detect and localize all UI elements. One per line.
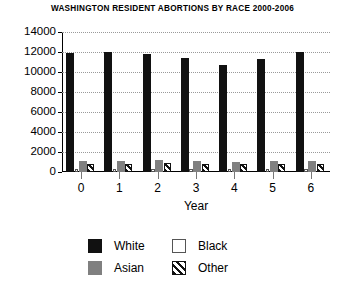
legend-column-left: White Asian [88, 237, 180, 279]
bar-group [215, 32, 253, 172]
legend-entry-white: White [88, 237, 145, 255]
y-tick-mark [58, 92, 62, 93]
bar-white [104, 52, 112, 172]
y-axis-tick-label: 4000 [0, 126, 56, 138]
bar-other [240, 164, 247, 172]
y-axis-tick-label: 14000 [0, 26, 56, 38]
legend-label-white: White [114, 240, 145, 252]
x-axis-tick-label: 1 [107, 182, 131, 194]
x-axis-tick-label: 2 [146, 182, 170, 194]
legend-swatch-black-icon [172, 239, 186, 253]
x-axis-tick-label: 0 [69, 182, 93, 194]
bar-asian [308, 161, 316, 173]
y-axis-tick-label: 12000 [0, 46, 56, 58]
bar-asian [193, 161, 201, 173]
y-axis-tick-label: 8000 [0, 86, 56, 98]
x-tick-mark [196, 172, 197, 179]
bar-other [278, 164, 285, 172]
legend-swatch-white-icon [88, 239, 102, 253]
bar-chart-figure: WASHINGTON RESIDENT ABORTIONS BY RACE 20… [0, 0, 345, 285]
legend-label-asian: Asian [114, 262, 144, 274]
bar-group [253, 32, 291, 172]
y-axis-tick-label: 2000 [0, 146, 56, 158]
bar-white [296, 52, 304, 172]
x-axis-ticks [62, 172, 330, 180]
x-axis-tick-label: 5 [261, 182, 285, 194]
bar-other [164, 163, 171, 172]
bar-group [62, 32, 100, 172]
y-tick-mark [58, 112, 62, 113]
y-axis-labels: 02000400060008000100001200014000 [0, 32, 56, 172]
x-tick-mark [273, 172, 274, 179]
bar-white [66, 53, 74, 172]
bar-asian [270, 161, 278, 172]
bar-asian [232, 162, 240, 173]
legend-swatch-other-icon [172, 261, 186, 275]
x-tick-mark [311, 172, 312, 179]
bar-asian [155, 160, 163, 172]
legend-label-black: Black [198, 240, 227, 252]
bar-group [100, 32, 138, 172]
plot-area [62, 32, 330, 172]
x-axis-tick-label: 3 [184, 182, 208, 194]
bar-group [292, 32, 330, 172]
bar-white [219, 65, 227, 172]
legend-swatch-asian-icon [88, 261, 102, 275]
y-tick-mark [58, 32, 62, 33]
x-axis-title: Year [62, 199, 330, 213]
bar-other [317, 164, 324, 173]
y-tick-mark [58, 132, 62, 133]
bar-other [202, 164, 209, 172]
x-tick-mark [81, 172, 82, 179]
bar-white [257, 59, 265, 173]
y-axis-tick-label: 10000 [0, 66, 56, 78]
legend-entry-black: Black [172, 237, 227, 255]
x-tick-mark [158, 172, 159, 179]
bar-white [143, 54, 151, 172]
bar-white [181, 58, 189, 172]
y-tick-mark [58, 152, 62, 153]
y-axis-tick-label: 6000 [0, 106, 56, 118]
legend-column-right: Black Other [172, 237, 264, 279]
bar-group [177, 32, 215, 172]
legend-entry-other: Other [172, 259, 228, 277]
x-axis-tick-label: 4 [222, 182, 246, 194]
y-tick-mark [58, 52, 62, 53]
x-axis-tick-label: 6 [299, 182, 323, 194]
x-axis-tick-labels: 0123456 [62, 182, 330, 198]
bar-asian [79, 161, 87, 172]
y-axis-tick-label: 0 [0, 166, 56, 178]
bar-other [87, 164, 94, 172]
bar-asian [117, 161, 125, 173]
chart-title: WASHINGTON RESIDENT ABORTIONS BY RACE 20… [0, 4, 345, 13]
x-tick-mark [119, 172, 120, 179]
bar-group [139, 32, 177, 172]
x-tick-mark [234, 172, 235, 179]
legend-label-other: Other [198, 262, 228, 274]
bar-other [125, 164, 132, 172]
chart-legend: White Asian Black Other [88, 237, 273, 279]
legend-entry-asian: Asian [88, 259, 144, 277]
y-tick-mark [58, 72, 62, 73]
